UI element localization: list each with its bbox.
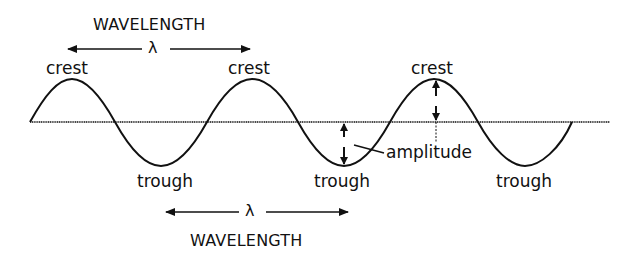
trough-label-1: trough	[137, 173, 193, 190]
crest-label-3: crest	[411, 60, 453, 77]
amplitude-label: amplitude	[386, 144, 472, 161]
wave-diagram	[0, 0, 637, 262]
lambda-symbol-bottom: λ	[245, 203, 254, 219]
lambda-symbol-top: λ	[148, 40, 157, 56]
crest-label-1: crest	[46, 60, 88, 77]
crest-label-2: crest	[228, 60, 270, 77]
wavelength-label-top: WAVELENGTH	[93, 17, 206, 33]
trough-label-2: trough	[314, 173, 370, 190]
wavelength-label-bottom: WAVELENGTH	[190, 233, 303, 249]
trough-label-3: trough	[496, 173, 552, 190]
